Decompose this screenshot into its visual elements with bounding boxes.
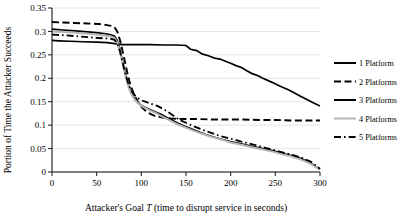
- y-tick-label: 0.2: [35, 73, 46, 83]
- y-axis-title: Portion of Time the Attacker Succeeds: [3, 26, 13, 173]
- legend-label-3-platforms: 3 Platforms: [359, 96, 397, 105]
- x-tick-label: 200: [224, 178, 238, 188]
- legend-label-4-platforms: 4 Platforms: [359, 115, 397, 124]
- x-axis-ticks: 050100150200250300: [50, 172, 328, 188]
- x-tick-label: 150: [179, 178, 193, 188]
- y-tick-label: 0.05: [30, 144, 46, 154]
- x-tick-label: 250: [269, 178, 283, 188]
- y-tick-label: 0.1: [35, 120, 46, 130]
- series-line-4-platforms: [52, 31, 320, 169]
- legend-label-1-platform: 1 Platform: [359, 59, 394, 68]
- legend-label-5-platforms: 5 Platforms: [359, 133, 397, 142]
- series-line-1-platform: [52, 40, 320, 106]
- chart-svg: 050100150200250300 00.050.10.150.20.250.…: [0, 0, 412, 224]
- chart-figure: 050100150200250300 00.050.10.150.20.250.…: [0, 0, 412, 224]
- x-tick-label: 300: [313, 178, 327, 188]
- y-tick-label: 0.15: [30, 97, 46, 107]
- x-tick-label: 100: [135, 178, 149, 188]
- y-tick-label: 0.35: [30, 3, 46, 13]
- y-tick-label: 0.3: [35, 27, 47, 37]
- x-tick-label: 50: [92, 178, 102, 188]
- x-tick-label: 0: [50, 178, 55, 188]
- legend-label-2-platforms: 2 Platforms: [359, 78, 397, 87]
- y-axis-ticks: 00.050.10.150.20.250.30.35: [30, 3, 52, 177]
- chart-legend: 1 Platform2 Platforms3 Platforms4 Platfo…: [334, 59, 397, 142]
- data-series-group: [52, 22, 320, 170]
- y-tick-label: 0: [42, 167, 47, 177]
- y-tick-label: 0.25: [30, 50, 46, 60]
- series-line-3-platforms: [52, 29, 320, 169]
- x-axis-title: Attacker's Goal T (time to disrupt servi…: [85, 203, 287, 214]
